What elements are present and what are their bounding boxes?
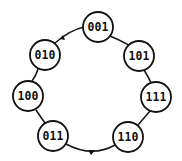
edge-101-111 xyxy=(144,70,151,83)
node-label: 100 xyxy=(18,89,39,103)
node-110: 110 xyxy=(113,122,143,152)
node-100: 100 xyxy=(13,81,43,111)
node-011: 011 xyxy=(38,121,68,151)
edge-111-110 xyxy=(138,111,150,125)
node-label: 011 xyxy=(43,129,64,143)
node-101: 101 xyxy=(124,41,154,71)
node-001: 001 xyxy=(83,12,113,42)
node-label: 101 xyxy=(129,49,150,63)
edge-010-001 xyxy=(55,27,84,43)
edge-100-010 xyxy=(32,69,38,81)
node-label: 111 xyxy=(146,90,167,104)
node-label: 001 xyxy=(88,20,109,34)
node-label: 010 xyxy=(35,48,56,62)
state-cycle-diagram: 001 101 111 110 011 100 010 xyxy=(0,0,182,161)
edge-001-101 xyxy=(110,36,130,46)
node-010: 010 xyxy=(30,40,60,70)
node-label: 110 xyxy=(118,130,139,144)
node-111: 111 xyxy=(141,82,171,112)
arrow-icon xyxy=(88,150,95,155)
edge-011-100 xyxy=(36,110,45,123)
